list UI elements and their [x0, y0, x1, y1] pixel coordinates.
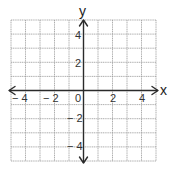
- x-axis-title: x: [160, 82, 167, 98]
- y-axis-title: y: [79, 3, 86, 19]
- y-tick-label-4: 4: [75, 29, 81, 41]
- y-tick-label-2: 2: [75, 57, 81, 69]
- x-tick-label-4: 4: [139, 92, 145, 104]
- x-tick-label-0: 0: [75, 92, 81, 104]
- coordinate-plane: x y − 4 − 2 0 2 4 4 2 − 2 − 4: [0, 0, 175, 172]
- x-tick-label-neg2: − 2: [43, 92, 59, 104]
- x-tick-label-2: 2: [110, 92, 116, 104]
- y-tick-label-neg4: − 4: [67, 140, 83, 152]
- x-tick-label-neg4: − 4: [12, 92, 28, 104]
- y-tick-label-neg2: − 2: [67, 112, 83, 124]
